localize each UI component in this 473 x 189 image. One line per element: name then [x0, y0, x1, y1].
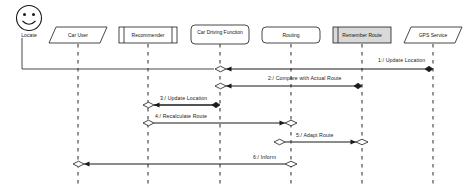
hollow-diamond-marker [143, 102, 154, 108]
message-label-3: 3:/ Update Location [160, 95, 207, 101]
arrow-head-icon [226, 83, 232, 88]
arrow-head-icon [280, 120, 286, 125]
lifeline-label-recommender: Recommender [119, 32, 177, 38]
lifeline-label-gps-service: GPS Service [404, 32, 462, 38]
message-arrow-5[interactable] [274, 139, 368, 145]
hollow-diamond-marker [143, 120, 154, 126]
message-arrow-3[interactable] [143, 102, 220, 108]
message-arrow-2[interactable] [215, 83, 362, 89]
smiley-face-icon [17, 6, 42, 31]
arrow-head-icon [226, 66, 232, 71]
actor-locate[interactable] [17, 6, 42, 31]
lifeline-label-car-user: Car User [49, 32, 107, 38]
hollow-diamond-marker [356, 139, 368, 145]
hollow-diamond-marker [215, 83, 226, 89]
message-label-5: 5:/ Adapt Route [296, 132, 334, 138]
hollow-diamond-marker [73, 161, 84, 167]
lifeline-label-remember-route: Remember Route [333, 32, 391, 38]
smiley-eye-left-icon [23, 13, 26, 16]
lifeline-dashes [78, 44, 433, 184]
arrow-head-icon [154, 102, 160, 107]
filled-diamond-marker [212, 102, 220, 108]
actor-label-locate: Locate [9, 32, 49, 38]
message-arrow-1[interactable] [215, 66, 433, 72]
arrow-head-icon [351, 139, 357, 144]
hollow-diamond-marker [274, 139, 285, 145]
lifeline-label-car-driving-function: Car Driving Function [191, 29, 249, 35]
message-label-2: 2:/ Compare with Actual Route [268, 75, 342, 81]
message-arrow-6[interactable] [73, 161, 297, 167]
message-label-6: 6:/ Inform [253, 154, 276, 160]
arrow-head-icon [84, 161, 90, 166]
lifeline-label-routing: Routing [262, 32, 320, 38]
hollow-diamond-marker [215, 66, 226, 72]
hollow-diamond-marker [285, 161, 297, 167]
message-label-4: 4:/ Recalculate Route [155, 113, 207, 119]
smiley-eye-right-icon [32, 13, 35, 16]
message-label-1: 1:/ Update Location [378, 57, 425, 63]
hollow-diamond-marker [285, 120, 297, 126]
filled-diamond-marker [425, 66, 433, 72]
sequence-diagram-canvas: Locate Car User Recommender Car Driving … [0, 0, 473, 189]
filled-diamond-marker [354, 83, 362, 89]
